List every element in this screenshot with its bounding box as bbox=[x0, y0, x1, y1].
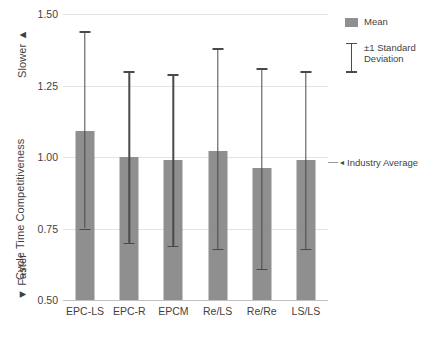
industry-average-leader-line bbox=[328, 162, 338, 163]
y-tick-1.00: 1.00 bbox=[18, 151, 58, 163]
error-bar-cap-lower bbox=[168, 246, 179, 248]
bar-group-epcm[interactable] bbox=[151, 14, 195, 300]
legend-item-mean: Mean bbox=[345, 16, 429, 28]
error-bar-cap-upper bbox=[256, 68, 267, 70]
error-bar-cap-lower bbox=[256, 269, 267, 271]
gridline-0.50 bbox=[63, 300, 328, 301]
left-arrow-icon: ◂ bbox=[340, 158, 344, 167]
legend-item-standard-deviation: ±1 Standard Deviation bbox=[345, 42, 429, 73]
plot-area bbox=[63, 14, 328, 300]
industry-average-label: Industry Average bbox=[347, 157, 418, 168]
y-axis-tick-labels: 1.501.251.000.750.50 bbox=[14, 14, 58, 300]
y-tick-1.50: 1.50 bbox=[18, 8, 58, 20]
error-bar-cap-upper bbox=[80, 31, 91, 33]
x-tick-re-re: Re/Re bbox=[240, 305, 284, 317]
legend-label-standard-deviation: ±1 Standard Deviation bbox=[364, 42, 416, 65]
x-tick-epc-ls: EPC-LS bbox=[63, 305, 107, 317]
legend-label-mean: Mean bbox=[364, 16, 388, 28]
error-bar-line bbox=[84, 31, 85, 228]
error-bar-cap-upper bbox=[300, 71, 311, 73]
x-tick-epc-r: EPC-R bbox=[107, 305, 151, 317]
bar-group-re-ls[interactable] bbox=[196, 14, 240, 300]
error-bar-cap-upper bbox=[124, 71, 135, 73]
error-bar-cap-lower bbox=[80, 229, 91, 231]
y-tick-1.25: 1.25 bbox=[18, 80, 58, 92]
y-tick-0.50: 0.50 bbox=[18, 294, 58, 306]
x-axis-tick-labels: EPC-LSEPC-REPCMRe/LSRe/ReLS/LS bbox=[63, 303, 328, 327]
error-bar-line bbox=[305, 71, 306, 248]
bar-group-epc-ls[interactable] bbox=[63, 14, 107, 300]
industry-average-annotation: ◂ Industry Average bbox=[328, 157, 418, 168]
bar-group-ls-ls[interactable] bbox=[284, 14, 328, 300]
error-bar-line bbox=[217, 48, 218, 248]
error-bar-line bbox=[173, 74, 174, 246]
x-tick-ls-ls: LS/LS bbox=[284, 305, 328, 317]
errorbar-icon bbox=[345, 43, 358, 73]
mean-swatch-icon bbox=[345, 18, 358, 27]
legend-label-std-line1: ±1 Standard bbox=[364, 42, 416, 54]
error-bar-cap-upper bbox=[168, 74, 179, 76]
cycle-time-competitiveness-chart: Slower ▲ Cycle Time Competitiveness ▼ Fa… bbox=[0, 0, 429, 337]
x-tick-re-ls: Re/LS bbox=[196, 305, 240, 317]
error-bar-line bbox=[129, 71, 130, 243]
error-bar-cap-lower bbox=[124, 243, 135, 245]
bar-group-epc-r[interactable] bbox=[107, 14, 151, 300]
chart-legend: Mean ±1 Standard Deviation bbox=[345, 16, 429, 87]
x-tick-epcm: EPCM bbox=[151, 305, 195, 317]
error-bar-cap-lower bbox=[212, 249, 223, 251]
error-bar-line bbox=[261, 68, 262, 268]
y-tick-0.75: 0.75 bbox=[18, 223, 58, 235]
error-bar-cap-upper bbox=[212, 48, 223, 50]
bar-group-re-re[interactable] bbox=[240, 14, 284, 300]
error-bar-cap-lower bbox=[300, 249, 311, 251]
legend-label-std-line2: Deviation bbox=[364, 53, 416, 65]
